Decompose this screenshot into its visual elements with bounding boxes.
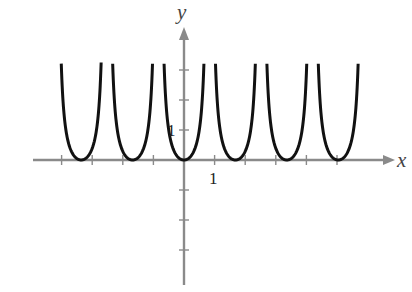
- y-axis: [179, 27, 189, 285]
- chart-plot: x y 1 1: [0, 0, 412, 292]
- x-tick-label-1: 1: [209, 169, 218, 188]
- curve-series: [61, 62, 358, 160]
- x-axis-arrow-icon: [383, 155, 395, 165]
- x-axis-label: x: [396, 148, 407, 172]
- y-tick-label-1: 1: [167, 121, 176, 140]
- y-axis-label: y: [175, 0, 187, 24]
- y-axis-arrow-icon: [179, 27, 189, 40]
